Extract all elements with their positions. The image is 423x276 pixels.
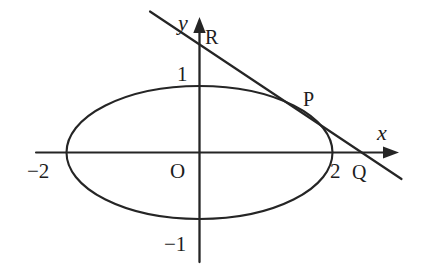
y-axis-arrowhead [193, 17, 205, 33]
tangent-line [150, 12, 402, 180]
figure-canvas: y R 1 P x −2 O 2 Q −1 [0, 0, 423, 276]
y-axis [193, 17, 205, 262]
x-axis-arrowhead [383, 147, 399, 159]
x-tick-label-minus-2: −2 [27, 161, 49, 182]
y-tick-label-minus-1: −1 [164, 234, 186, 255]
point-label-r: R [205, 27, 218, 47]
origin-label: O [170, 161, 185, 182]
x-axis-label: x [377, 122, 387, 144]
point-label-q: Q [352, 162, 366, 182]
point-label-p: P [303, 89, 314, 109]
y-axis-label: y [178, 12, 188, 34]
y-tick-label-1: 1 [177, 64, 188, 85]
x-axis [36, 147, 399, 159]
x-tick-label-2: 2 [330, 161, 341, 182]
